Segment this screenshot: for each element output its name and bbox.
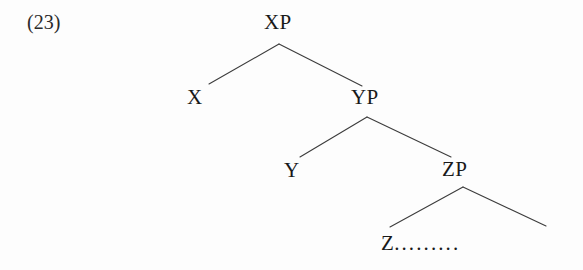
figure-canvas: (23) XP X YP Y ZP Z......... [0,0,583,270]
edge-xp-x [209,44,279,84]
tree-terminal-letter: Z [381,231,394,255]
tree-terminal-ellipsis: ......... [394,231,460,255]
tree-node-yp: YP [351,87,378,108]
edge-yp-y [300,117,367,157]
edge-zp-open [463,187,546,226]
tree-terminal-z: Z......... [381,233,460,254]
tree-node-x: X [187,87,202,108]
edge-yp-zp [367,117,451,157]
edge-zp-z [390,187,463,227]
tree-node-xp: XP [264,12,291,33]
tree-node-y: Y [284,160,299,181]
edge-xp-yp [279,44,362,86]
tree-node-zp: ZP [442,159,467,180]
tree-branches-svg [0,0,583,270]
